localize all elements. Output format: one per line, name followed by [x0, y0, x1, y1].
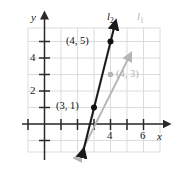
x-axis-label: x	[157, 131, 162, 142]
x-tick-label-6: 6	[140, 130, 146, 141]
line-label-l2-subscript: 2	[110, 16, 114, 25]
point-marker-4-3	[108, 72, 114, 78]
point-marker-3-1	[91, 105, 97, 111]
y-axis-label: y	[31, 12, 36, 23]
line-label-l2: l2	[107, 12, 114, 25]
point-label-3-1: (3, 1)	[56, 101, 79, 112]
coordinate-plane-figure: y x 2 4 4 6 (4, 5) (4, 3) (3, 1) l2 l1	[0, 0, 173, 175]
y-tick-label-2: 2	[30, 85, 36, 96]
line-label-l1-subscript: 1	[140, 16, 144, 25]
x-tick-label-4: 4	[107, 130, 113, 141]
point-label-4-3: (4, 3)	[116, 69, 139, 80]
graph-canvas	[0, 0, 173, 175]
point-label-4-5: (4, 5)	[66, 36, 89, 47]
point-marker-4-5	[108, 39, 114, 45]
line-label-l1: l1	[137, 12, 144, 25]
y-tick-label-4: 4	[30, 52, 36, 63]
